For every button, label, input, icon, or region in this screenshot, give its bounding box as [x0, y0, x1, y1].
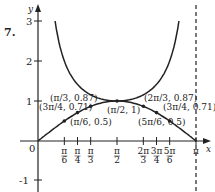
svg-text:(5π/6, 0.5): (5π/6, 0.5) — [138, 117, 185, 127]
svg-text:6: 6 — [61, 155, 67, 165]
svg-text:-1: -1 — [19, 175, 29, 186]
svg-text:(π/6, 0.5): (π/6, 0.5) — [70, 117, 112, 127]
svg-text:3: 3 — [26, 16, 32, 27]
svg-text:6: 6 — [167, 155, 173, 165]
x-label: x — [206, 144, 211, 154]
svg-text:2: 2 — [114, 155, 120, 165]
svg-text:2: 2 — [26, 56, 32, 67]
origin-label: 0 — [29, 143, 35, 154]
svg-text:4: 4 — [154, 155, 160, 165]
svg-text:1: 1 — [26, 96, 32, 107]
svg-text:(3π/4, 0.71): (3π/4, 0.71) — [163, 102, 215, 112]
problem-number: 7. — [4, 26, 15, 39]
svg-text:3: 3 — [140, 155, 146, 165]
svg-text:4: 4 — [75, 155, 81, 165]
graph: 7. y x 0 3 2 1 -1 π6π4π3π22π33π45π6π (π/… — [0, 0, 215, 192]
svg-text:(3π/4, 0.71): (3π/4, 0.71) — [39, 102, 92, 112]
svg-text:(π/2, 1): (π/2, 1) — [107, 105, 140, 115]
y-label: y — [27, 4, 34, 14]
svg-text:π: π — [193, 146, 199, 156]
y-arrow-icon — [35, 4, 41, 12]
csc-curve — [55, 21, 179, 101]
svg-text:3: 3 — [88, 155, 94, 165]
